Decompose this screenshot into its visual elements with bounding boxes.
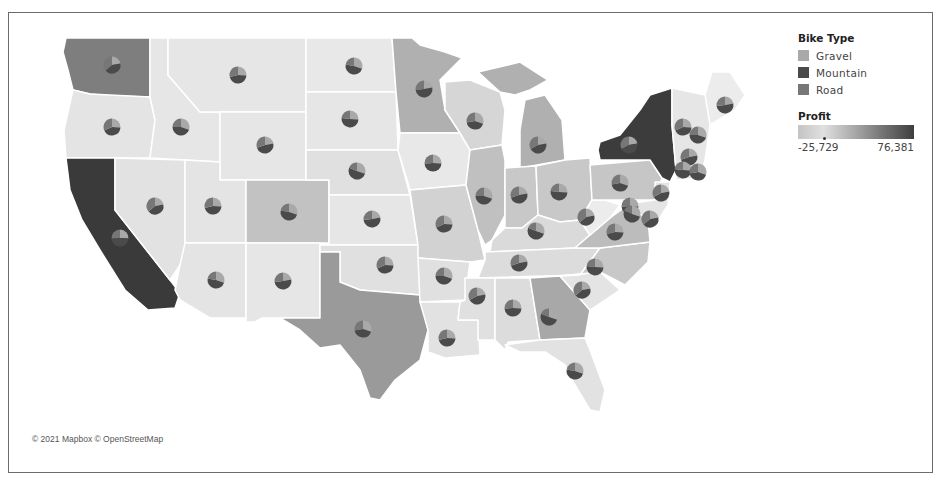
pie-marker-ar[interactable] bbox=[436, 268, 453, 285]
pie-marker-or[interactable] bbox=[104, 119, 121, 136]
legend-title-bike-type: Bike Type bbox=[798, 32, 928, 44]
pie-marker-co[interactable] bbox=[280, 204, 297, 221]
pie-marker-il[interactable] bbox=[476, 188, 493, 205]
pie-marker-mt[interactable] bbox=[230, 67, 247, 84]
pie-marker-mi[interactable] bbox=[530, 137, 547, 154]
pie-marker-ct[interactable] bbox=[675, 162, 692, 179]
pie-marker-nc[interactable] bbox=[587, 259, 604, 276]
pie-marker-ga[interactable] bbox=[540, 309, 557, 326]
legend-item-mountain[interactable]: Mountain bbox=[798, 64, 928, 81]
map-attribution[interactable]: © 2021 Mapbox © OpenStreetMap bbox=[32, 434, 163, 444]
legend-label: Mountain bbox=[816, 67, 867, 79]
pie-marker-dc[interactable] bbox=[642, 211, 659, 228]
legend-title-profit: Profit bbox=[798, 110, 928, 122]
pie-marker-ny[interactable] bbox=[621, 137, 638, 154]
pie-marker-nv[interactable] bbox=[146, 198, 163, 215]
pie-marker-mo[interactable] bbox=[435, 216, 452, 233]
pie-marker-wi[interactable] bbox=[466, 113, 483, 130]
pie-marker-ky[interactable] bbox=[527, 223, 544, 240]
pie-marker-al[interactable] bbox=[505, 300, 522, 317]
pie-marker-id[interactable] bbox=[173, 119, 190, 136]
pie-marker-fl[interactable] bbox=[567, 362, 584, 379]
mountain-swatch-icon bbox=[798, 67, 809, 78]
pie-marker-mn[interactable] bbox=[415, 81, 432, 98]
pie-marker-nh[interactable] bbox=[689, 127, 706, 144]
pie-marker-me[interactable] bbox=[716, 97, 733, 114]
pie-marker-ut[interactable] bbox=[204, 198, 221, 215]
zero-marker-icon bbox=[823, 137, 826, 140]
pie-marker-ms[interactable] bbox=[469, 288, 486, 305]
profit-max-label: 76,381 bbox=[877, 141, 914, 153]
pie-marker-in[interactable] bbox=[511, 187, 528, 204]
pie-marker-vt[interactable] bbox=[674, 119, 691, 136]
pie-marker-wa[interactable] bbox=[104, 57, 121, 74]
pie-marker-nj[interactable] bbox=[652, 185, 669, 202]
pie-marker-ri[interactable] bbox=[690, 164, 707, 181]
legend-label: Gravel bbox=[816, 50, 852, 62]
profit-range-labels: -25,729 76,381 bbox=[798, 141, 914, 153]
profit-color-ramp bbox=[798, 125, 914, 139]
pie-marker-ne[interactable] bbox=[348, 163, 365, 180]
pie-marker-nd[interactable] bbox=[345, 58, 362, 75]
pie-marker-md[interactable] bbox=[624, 206, 641, 223]
pie-marker-wy[interactable] bbox=[257, 137, 274, 154]
pie-marker-ca[interactable] bbox=[111, 230, 128, 247]
road-swatch-icon bbox=[798, 84, 809, 95]
pie-marker-tx[interactable] bbox=[354, 321, 371, 338]
pie-marker-ks[interactable] bbox=[363, 211, 380, 228]
profit-legend: Profit -25,729 76,381 bbox=[798, 110, 928, 153]
pie-marker-oh[interactable] bbox=[551, 184, 568, 201]
pie-marker-pa[interactable] bbox=[612, 175, 629, 192]
pie-marker-sd[interactable] bbox=[341, 111, 358, 128]
legend: Bike Type Gravel Mountain Road Profit -2… bbox=[798, 32, 928, 153]
pie-marker-ia[interactable] bbox=[425, 155, 442, 172]
gravel-swatch-icon bbox=[798, 50, 809, 61]
pie-marker-sc[interactable] bbox=[574, 282, 591, 299]
legend-label: Road bbox=[816, 84, 844, 96]
legend-item-road[interactable]: Road bbox=[798, 81, 928, 98]
pie-marker-ok[interactable] bbox=[376, 257, 393, 274]
profit-min-label: -25,729 bbox=[798, 141, 839, 153]
pie-marker-nm[interactable] bbox=[275, 273, 292, 290]
pie-marker-la[interactable] bbox=[439, 329, 456, 346]
legend-item-gravel[interactable]: Gravel bbox=[798, 47, 928, 64]
pie-marker-va[interactable] bbox=[607, 223, 624, 240]
pie-marker-wv[interactable] bbox=[578, 209, 595, 226]
pie-marker-az[interactable] bbox=[208, 272, 225, 289]
pie-marker-tn[interactable] bbox=[511, 255, 528, 272]
state-florida[interactable] bbox=[505, 338, 605, 412]
